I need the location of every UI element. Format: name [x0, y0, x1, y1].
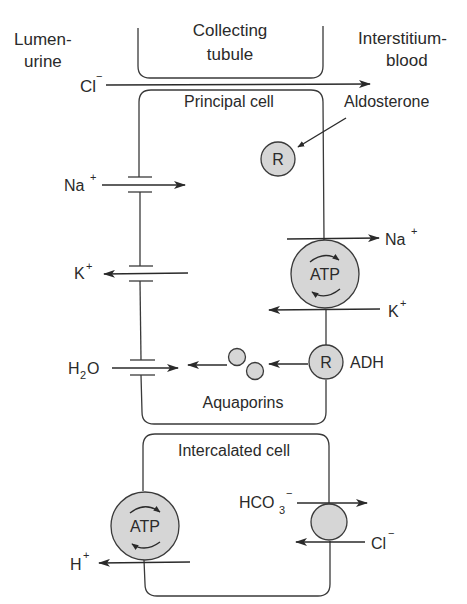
svg-text:3: 3 — [279, 504, 285, 516]
svg-text:Lumen-: Lumen- — [14, 30, 72, 49]
svg-text:H: H — [68, 360, 80, 377]
aquaporin-vesicle — [247, 363, 264, 380]
svg-text:−: − — [96, 70, 102, 82]
aquaporin-vesicle — [229, 349, 246, 366]
adh-label: ADH — [350, 354, 384, 371]
h-atpase-pump: ATP — [111, 492, 179, 560]
cl-basolateral-ion: Cl − — [371, 527, 394, 552]
hco3-cl-exchanger — [311, 504, 347, 540]
k-basolateral-arrow — [269, 309, 380, 310]
k-apical-arrow — [104, 273, 188, 274]
principal-cell-title: Principal cell — [184, 93, 274, 110]
svg-text:urine: urine — [24, 52, 62, 71]
svg-text:+: + — [83, 549, 89, 561]
svg-text:tubule: tubule — [207, 45, 253, 64]
hco3-ion: HCO 3 − — [239, 487, 292, 516]
svg-text:H: H — [70, 556, 82, 573]
svg-text:Collecting: Collecting — [193, 21, 268, 40]
cl-paracellular-ion: Cl − — [80, 70, 102, 96]
svg-text:Cl: Cl — [371, 535, 386, 552]
svg-text:R: R — [320, 354, 332, 371]
svg-text:Interstitium-: Interstitium- — [358, 29, 447, 48]
adh-receptor: R — [309, 345, 343, 379]
svg-text:R: R — [272, 151, 284, 168]
svg-text:−: − — [388, 527, 394, 539]
tubule-label: Collecting tubule — [193, 21, 268, 64]
na-basolateral-ion: Na + — [385, 225, 417, 248]
svg-text:blood: blood — [386, 51, 428, 70]
aldosterone-arrow — [298, 118, 346, 147]
svg-text:ATP: ATP — [130, 518, 160, 535]
svg-text:O: O — [87, 360, 99, 377]
svg-text:Na: Na — [64, 177, 85, 194]
svg-text:+: + — [400, 297, 406, 309]
svg-text:2: 2 — [80, 369, 86, 381]
svg-text:Cl: Cl — [80, 77, 96, 96]
svg-text:K: K — [74, 265, 85, 282]
aldosterone-receptor: R — [261, 142, 295, 176]
h2o-molecule: H 2 O — [68, 360, 99, 381]
svg-text:+: + — [90, 171, 96, 183]
svg-text:HCO: HCO — [239, 494, 275, 511]
interstitium-label: Interstitium- blood — [358, 29, 447, 70]
h-apical-ion: H + — [70, 549, 89, 573]
svg-text:−: − — [286, 487, 292, 499]
svg-text:K: K — [388, 303, 399, 320]
h-apical-arrow — [99, 562, 190, 563]
svg-text:ATP: ATP — [310, 266, 340, 283]
svg-text:+: + — [86, 260, 92, 272]
aldosterone-label: Aldosterone — [344, 93, 429, 110]
k-apical-ion: K + — [74, 260, 92, 282]
intercalated-cell-title: Intercalated cell — [178, 442, 290, 459]
svg-text:Na: Na — [385, 231, 406, 248]
lumen-label: Lumen- urine — [14, 30, 72, 71]
aquaporins-label: Aquaporins — [203, 394, 284, 411]
na-apical-ion: Na + — [64, 171, 96, 194]
collecting-tubule-diagram: Lumen- urine Collecting tubule Interstit… — [0, 0, 467, 604]
na-basolateral-arrow — [287, 238, 379, 239]
cl-paracellular-arrow — [106, 84, 370, 85]
k-basolateral-ion: K + — [388, 297, 406, 320]
svg-text:+: + — [411, 225, 417, 237]
na-k-atpase-pump: ATP — [291, 240, 359, 308]
